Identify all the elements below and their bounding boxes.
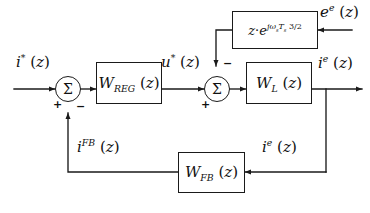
label-control-voltage: u* (z) [161, 55, 200, 70]
block-w-fb-label: WFB (z) [185, 165, 238, 180]
block-w-l-label: WL (z) [256, 76, 302, 91]
summer-2-plus-sign: + [201, 99, 210, 110]
summer-1-sigma: Σ [63, 81, 73, 97]
block-delay-exponential[interactable]: z·ejωsTs 3/2 [232, 11, 318, 49]
label-emf-input: ee (z) [320, 5, 359, 20]
summer-2-minus-sign: − [223, 58, 232, 69]
label-feedback-current: iFB (z) [77, 140, 120, 155]
block-w-fb[interactable]: WFB (z) [178, 152, 245, 193]
block-w-l[interactable]: WL (z) [246, 62, 312, 104]
block-w-reg[interactable]: WREG (z) [96, 62, 162, 104]
label-measured-current: ie (z) [262, 140, 297, 155]
block-diagram-canvas: WREG (z) WL (z) WFB (z) z·ejωsTs 3/2 Σ +… [0, 0, 370, 213]
label-output-current: ie (z) [318, 56, 353, 71]
block-w-reg-label: WREG (z) [98, 76, 159, 91]
block-delay-label: z·ejωsTs 3/2 [248, 24, 302, 37]
summer-1-plus-sign: + [53, 99, 62, 110]
summer-2-sigma: Σ [212, 81, 222, 97]
delay-exponent: jωsTs 3/2 [267, 22, 302, 31]
label-reference-current: i* (z) [16, 55, 50, 70]
summer-1-minus-sign: − [76, 101, 85, 112]
